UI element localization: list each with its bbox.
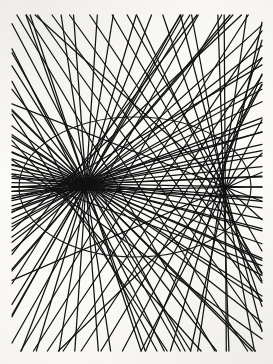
caustic-figure-container bbox=[0, 0, 273, 364]
caustic-figure-canvas bbox=[0, 0, 273, 364]
